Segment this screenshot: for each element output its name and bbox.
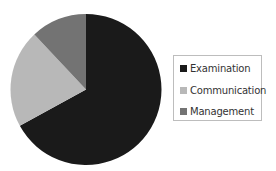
legend-label: Examination	[190, 63, 250, 74]
legend-item-communication: Communication	[180, 83, 266, 97]
legend-item-examination: Examination	[180, 61, 250, 75]
legend-label: Communication	[190, 85, 266, 96]
legend-swatch-examination	[180, 65, 187, 72]
legend-swatch-communication	[180, 87, 187, 94]
legend-item-management: Management	[180, 104, 254, 118]
legend-swatch-management	[180, 108, 187, 115]
legend-label: Management	[190, 106, 254, 117]
chart-legend: Examination Communication Management	[173, 55, 262, 121]
